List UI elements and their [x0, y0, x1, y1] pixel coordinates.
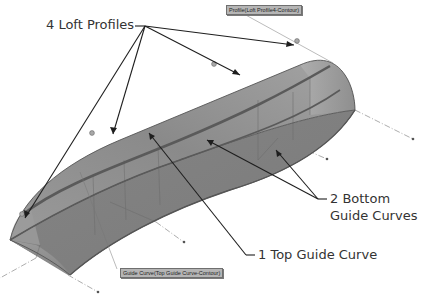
- profile-tag[interactable]: Profile(Loft Profile4-Contour): [226, 5, 302, 15]
- top-guide-callout: 1 Top Guide Curve: [258, 246, 377, 263]
- bottom-guides-callout-line1: 2 Bottom: [330, 190, 390, 207]
- guide-curve-tag[interactable]: Guide Curve(Top Guide Curve-Contour): [120, 268, 223, 278]
- loft-profiles-callout: 4 Loft Profiles: [46, 16, 134, 33]
- bottom-guides-callout-line2: Guide Curves: [330, 207, 417, 224]
